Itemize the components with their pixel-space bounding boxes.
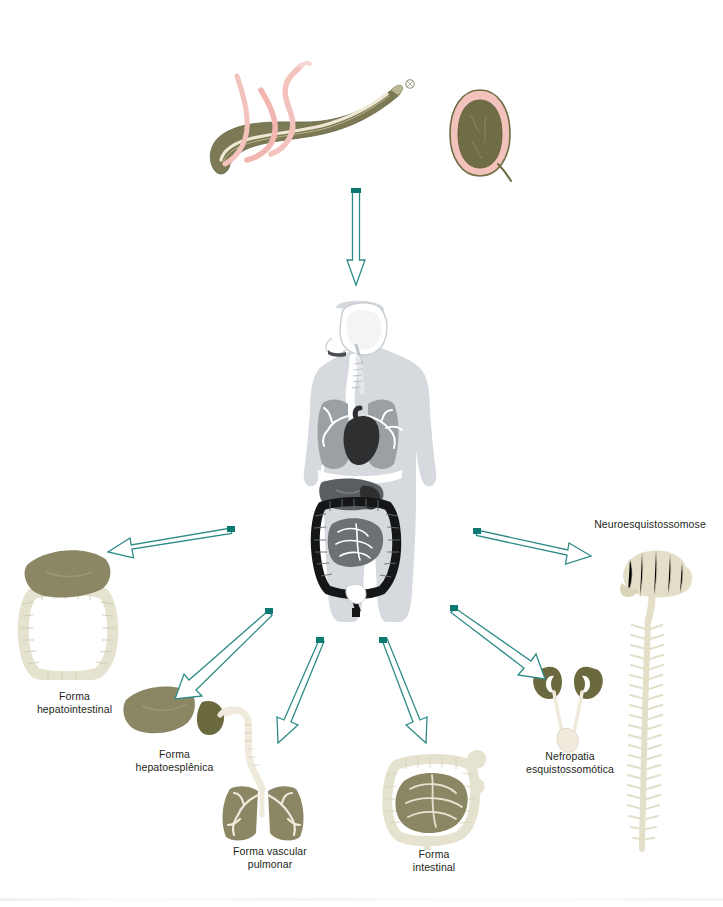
arrow-tail-cap bbox=[379, 637, 387, 643]
adult-worm-pair-svg bbox=[205, 60, 425, 190]
adult-worm-pair bbox=[205, 60, 425, 190]
egg-lateral-spine bbox=[498, 164, 511, 181]
caption-neuroesquistossomose: Neuroesquistossomose bbox=[580, 518, 720, 531]
lung-left bbox=[318, 400, 349, 469]
kidneys-and-bladder-svg bbox=[518, 658, 618, 758]
human-body-anatomy bbox=[270, 300, 470, 625]
brain bbox=[347, 310, 382, 349]
caption-hepatointestinal: Forma hepatointestinal bbox=[12, 690, 137, 716]
form-organ-vascular-pulmonar bbox=[210, 703, 320, 843]
liver-and-colon-svg bbox=[12, 540, 137, 680]
page-bottom-rule bbox=[0, 898, 723, 901]
schistosome-egg bbox=[440, 86, 520, 186]
arrow-host-to-neuroesquistossomose bbox=[473, 528, 591, 564]
trachea bbox=[226, 710, 262, 789]
intestines-svg bbox=[378, 745, 490, 850]
schistosome-egg-svg bbox=[440, 86, 520, 186]
male-worm-body bbox=[210, 88, 401, 174]
arrow-tail-cap bbox=[473, 528, 481, 534]
anus-marker bbox=[352, 608, 360, 617]
brainstem bbox=[648, 597, 652, 621]
form-organ-hepatointestinal bbox=[12, 540, 137, 680]
arrow-tail-cap bbox=[316, 637, 324, 643]
diagram-canvas: Forma hepatointestinal Forma hepatoesplê… bbox=[0, 0, 723, 907]
female-worm-tail bbox=[301, 63, 310, 66]
oral-sucker-detail bbox=[407, 81, 413, 87]
caption-vascular-pulmonar: Forma vascular pulmonar bbox=[200, 845, 340, 871]
caption-intestinal: Forma intestinal bbox=[378, 848, 490, 874]
form-organ-neuroesquistossomose bbox=[612, 545, 717, 860]
spinal-cord bbox=[642, 621, 648, 849]
small-intestine bbox=[328, 518, 383, 567]
rectum-segment bbox=[67, 676, 71, 680]
liver bbox=[25, 550, 111, 597]
colon bbox=[23, 590, 112, 677]
form-organ-intestinal bbox=[378, 745, 490, 850]
ureter-left bbox=[554, 692, 562, 732]
form-organ-nefropatia bbox=[518, 658, 618, 758]
lungs-and-trachea-svg bbox=[210, 703, 320, 843]
arrow-host-to-intestinal bbox=[379, 637, 427, 743]
ureter-right bbox=[574, 692, 582, 732]
arrow-tail-cap bbox=[227, 526, 235, 532]
arrow-source-to-host bbox=[347, 188, 365, 285]
brain-and-spinal-cord-svg bbox=[612, 545, 717, 860]
human-body-svg bbox=[270, 300, 470, 625]
egg-miracidium bbox=[458, 100, 502, 168]
lung-left bbox=[223, 786, 258, 840]
bladder bbox=[557, 728, 578, 752]
